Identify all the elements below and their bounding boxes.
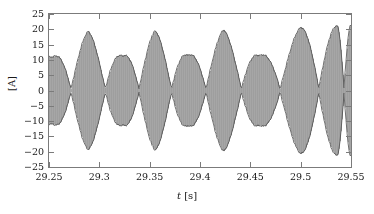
plot-area <box>48 13 352 168</box>
x-tick-top <box>250 14 251 19</box>
y-tick <box>49 152 54 153</box>
x-tick <box>301 162 302 167</box>
x-tick-label: 29.35 <box>122 172 178 182</box>
y-axis-title: [A] <box>6 76 17 91</box>
x-tick-label: 29.55 <box>323 172 374 182</box>
y-tick <box>49 45 54 46</box>
y-tick <box>49 136 54 137</box>
x-tick <box>351 162 352 167</box>
y-tick-right <box>346 167 351 168</box>
x-tick-label: 29.25 <box>21 172 77 182</box>
x-tick-top <box>200 14 201 19</box>
waveform-canvas <box>49 14 352 168</box>
y-tick-right <box>346 152 351 153</box>
x-tick <box>250 162 251 167</box>
y-tick-right <box>346 136 351 137</box>
y-tick-label: 15 <box>18 40 44 50</box>
x-tick-label: 29.45 <box>222 172 278 182</box>
y-tick <box>49 106 54 107</box>
y-tick <box>49 121 54 122</box>
x-axis-title: t [s] <box>0 190 374 201</box>
y-tick-label: −20 <box>18 147 44 157</box>
x-tick-top <box>301 14 302 19</box>
x-tick-label: 29.4 <box>172 172 228 182</box>
x-tick <box>99 162 100 167</box>
y-tick <box>49 75 54 76</box>
y-tick-right <box>346 29 351 30</box>
y-tick <box>49 60 54 61</box>
y-tick-label: 20 <box>18 24 44 34</box>
x-tick <box>150 162 151 167</box>
x-tick <box>200 162 201 167</box>
x-tick <box>49 162 50 167</box>
y-tick <box>49 91 54 92</box>
x-axis-symbol: t <box>177 190 181 201</box>
y-tick <box>49 29 54 30</box>
x-axis-unit: [s] <box>184 190 197 201</box>
y-tick-label: −10 <box>18 116 44 126</box>
x-tick-label: 29.5 <box>273 172 329 182</box>
y-tick-label: 0 <box>18 86 44 96</box>
x-tick-top <box>99 14 100 19</box>
x-tick-label: 29.3 <box>71 172 127 182</box>
y-tick-right <box>346 75 351 76</box>
y-tick-label: −15 <box>18 131 44 141</box>
x-tick-top <box>150 14 151 19</box>
y-tick-label: 10 <box>18 55 44 65</box>
y-tick-right <box>346 45 351 46</box>
y-tick-right <box>346 121 351 122</box>
y-tick-label: 25 <box>18 9 44 19</box>
x-tick-top <box>351 14 352 19</box>
y-tick-right <box>346 91 351 92</box>
y-tick-label: −5 <box>18 101 44 111</box>
y-tick-right <box>346 106 351 107</box>
y-tick <box>49 167 54 168</box>
current-waveform-figure: [A] −25−20−15−10−50510152025 29.2529.329… <box>0 0 374 214</box>
y-tick-right <box>346 60 351 61</box>
y-tick-label: 5 <box>18 70 44 80</box>
x-tick-top <box>49 14 50 19</box>
